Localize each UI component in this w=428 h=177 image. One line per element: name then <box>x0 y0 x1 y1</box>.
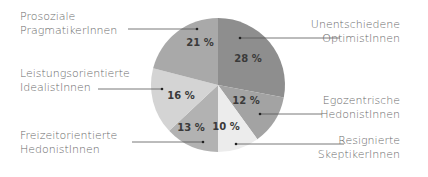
slice-category-label: ResignierteSkeptikerInnen <box>318 134 400 161</box>
slice-category-label: LeistungsorientierteIdealistInnen <box>20 67 130 94</box>
slice-percent-label: 28 % <box>234 53 261 64</box>
leader-dot <box>239 37 242 40</box>
leader-dot <box>202 141 205 144</box>
leader-dot <box>235 143 238 146</box>
slice-percent-label: 12 % <box>232 95 259 106</box>
slice-percent-label: 10 % <box>212 121 239 132</box>
slice-category-label: FreizeitorientierteHedonistInnen <box>20 129 117 156</box>
slice-percent-label: 21 % <box>186 37 213 48</box>
slice-percent-label: 16 % <box>167 90 194 101</box>
pie-chart: 28 %12 %10 %13 %16 %21 % UnentschiedeneO… <box>0 0 428 177</box>
slice-category-label: ProsozialePragmatikerInnen <box>20 10 117 37</box>
leader-dot <box>259 113 262 116</box>
leader-dot <box>196 28 199 31</box>
slice-percent-label: 13 % <box>177 122 204 133</box>
slice-category-label: UnentschiedeneOptimistInnen <box>311 18 400 45</box>
leader-dot <box>161 88 164 91</box>
slice-category-label: EgozentrischeHedonistInnen <box>320 94 400 121</box>
